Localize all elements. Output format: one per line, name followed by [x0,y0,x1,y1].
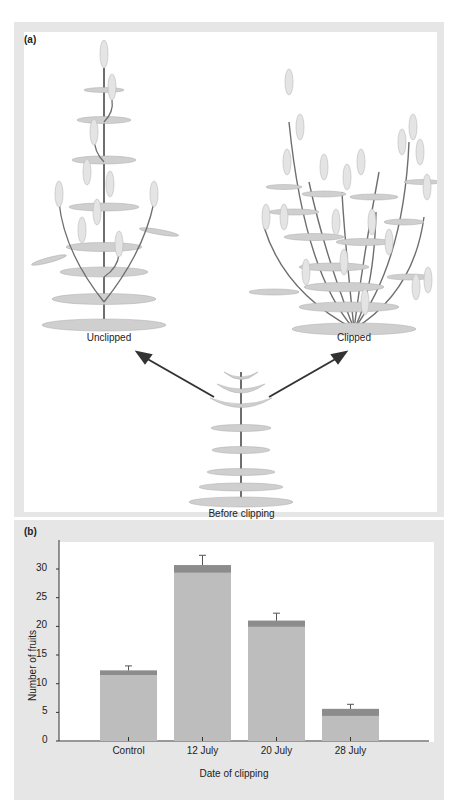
ytick-25: 25 [36,591,47,602]
xtick-28-july: 28 July [316,745,386,756]
caption-clipped: Clipped [324,332,384,343]
y-axis-title: Number of fruits [27,616,38,716]
bars [100,555,379,741]
ytick-0: 0 [42,734,48,745]
panel-b: (b) [14,520,444,800]
ytick-5: 5 [42,705,48,716]
xtick-control: Control [94,745,164,756]
illustration-area: (a) [24,32,437,512]
panel-a: (a) [14,22,444,517]
unclipped-plant-icon [31,40,179,331]
xtick-12-july: 12 July [168,745,238,756]
x-axis-title: Date of clipping [184,768,284,779]
ytick-15: 15 [36,648,47,659]
clipped-plant-icon [249,69,437,335]
ytick-10: 10 [36,677,47,688]
bar-chart [14,520,444,800]
ytick-30: 30 [36,562,47,573]
caption-before-clipping: Before clipping [194,508,289,519]
caption-unclipped: Unclipped [79,332,139,343]
xtick-20-july: 20 July [242,745,312,756]
ytick-20: 20 [36,619,47,630]
plant-illustrations [24,32,437,512]
